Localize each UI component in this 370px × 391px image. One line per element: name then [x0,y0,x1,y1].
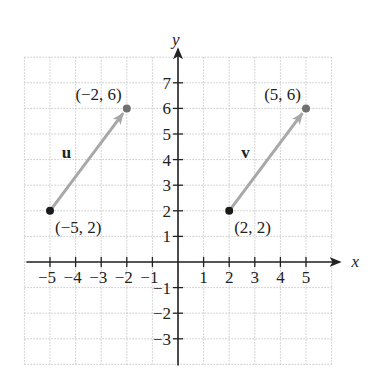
y-tick-label: 3 [163,176,172,195]
vector-u-name: u [62,143,71,162]
x-tick-label: −2 [115,268,133,287]
x-tick-label: 5 [302,268,311,287]
vector-v-start-label: (2, 2) [234,218,271,237]
x-tick-label: −3 [89,268,107,287]
x-axis-label: x [351,252,360,271]
vector-u-arrow [50,113,123,211]
x-tick-label: 4 [276,268,285,287]
y-tick-label: 2 [163,202,172,221]
vector-u-start-label: (−5, 2) [55,218,101,237]
vector-u-end-point [123,104,131,112]
y-tick-label: −3 [153,330,171,349]
y-tick-label: 4 [163,151,172,170]
vector-v-name: v [241,143,250,162]
vector-v-start-point [225,207,233,215]
y-axis-label: y [170,30,180,49]
x-tick-label: 1 [199,268,208,287]
vector-u-start-point [46,207,54,215]
y-tick-label: −2 [153,304,171,323]
x-tick-label: 3 [251,268,260,287]
vector-u-end-label: (−2, 6) [75,85,121,104]
y-tick-label: 5 [163,125,172,144]
y-tick-label: 6 [163,99,172,118]
vector-v-end-label: (5, 6) [264,85,301,104]
vector-v-end-point [302,104,310,112]
vector-v-arrow [229,113,302,211]
y-tick-label: 7 [163,74,172,93]
coordinate-plane: −5−4−3−2−112345−3−2−11234567 xy(−5, 2)(−… [0,0,370,391]
x-tick-label: −5 [38,268,56,287]
x-tick-label: 2 [225,268,234,287]
labels: xy(−5, 2)(−2, 6)u(2, 2)(5, 6)v [55,30,360,271]
x-tick-label: −4 [64,268,83,287]
y-tick-label: −1 [153,279,171,298]
y-tick-label: 1 [163,227,172,246]
